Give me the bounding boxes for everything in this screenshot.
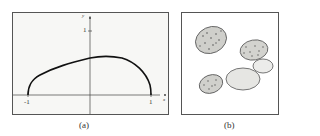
y-tick-label-1: 1 — [83, 26, 87, 34]
y-axis-arrow-icon — [89, 17, 91, 19]
curve — [28, 57, 151, 96]
y-axis-label: y — [82, 13, 84, 18]
caption-a: (a) — [79, 120, 89, 130]
x-axis-arrow-icon — [164, 94, 166, 96]
x-tick-label-1: 1 — [149, 98, 153, 106]
panel-b-frame — [181, 12, 279, 115]
x-tick-label-neg1: -1 — [24, 98, 30, 106]
caption-b: (b) — [224, 120, 235, 130]
x-axis-label: x — [163, 97, 165, 102]
